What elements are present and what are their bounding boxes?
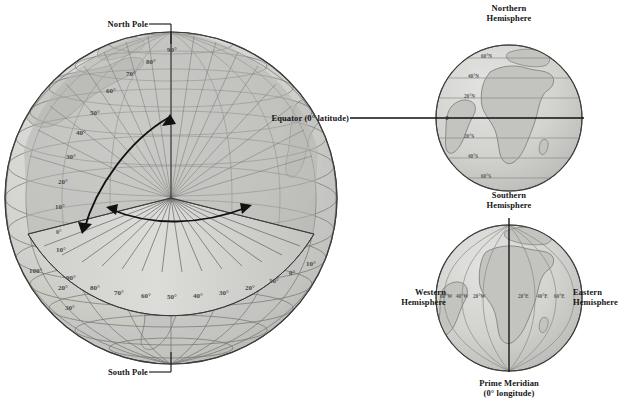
northern-hemisphere-label-line1: Northern xyxy=(459,3,559,13)
main-lat-60: 60° xyxy=(106,87,116,95)
north-pole-label: North Pole xyxy=(72,19,148,29)
main-globe-group xyxy=(5,24,337,372)
main-lat-10: 10° xyxy=(55,203,65,211)
western-hemisphere-label-line2: Hemisphere xyxy=(374,297,446,307)
eastern-hemisphere-label-line1: Eastern xyxy=(573,287,602,297)
ns-lat-60n: 60°N xyxy=(481,53,492,59)
main-lat-s20: 20° xyxy=(58,284,68,292)
we-lon-40w: 40°W xyxy=(456,293,468,299)
main-lat-s10: 10° xyxy=(56,246,66,254)
main-lon-100: 100° xyxy=(29,267,42,275)
southern-hemisphere-label-line2: Hemisphere xyxy=(459,200,559,210)
main-lat-40: 40° xyxy=(76,129,86,137)
main-lon-30: 30° xyxy=(219,289,229,297)
northern-hemisphere-label-line2: Hemisphere xyxy=(459,13,559,23)
main-lat-90: 90° xyxy=(167,46,177,54)
main-lon-0: 0° xyxy=(289,269,295,277)
ns-lat-40n: 40°N xyxy=(468,73,479,79)
ns-lat-60s: 60°S xyxy=(481,173,491,179)
we-lon-20w: 20°W xyxy=(473,293,485,299)
ns-lat-20n: 20°N xyxy=(464,93,475,99)
main-lon-50: 50° xyxy=(167,293,177,301)
main-lat-30: 30° xyxy=(66,153,76,161)
main-lat-20: 20° xyxy=(58,178,68,186)
main-lat-0: 0° xyxy=(56,229,61,236)
main-lon-10: 10° xyxy=(269,277,279,285)
ns-hemisphere-globe-group xyxy=(350,45,584,191)
we-lon-60e: 60°E xyxy=(554,293,565,299)
main-lon-60: 60° xyxy=(141,292,151,300)
we-lon-60w: 60°W xyxy=(440,293,452,299)
south-pole-label: South Pole xyxy=(72,367,148,377)
main-lat-50: 50° xyxy=(90,109,100,117)
eastern-hemisphere-label-line2: Hemisphere xyxy=(573,297,618,307)
main-lat-70: 70° xyxy=(126,70,136,78)
main-lat-80: 80° xyxy=(146,58,156,66)
main-lon-e10: 10° xyxy=(306,260,316,268)
main-lon-80: 80° xyxy=(90,284,100,292)
main-lon-90: 90° xyxy=(66,274,76,282)
prime-meridian-label-line2: (0° longitude) xyxy=(449,388,569,398)
we-lon-20e: 20°E xyxy=(518,293,529,299)
main-lon-40: 40° xyxy=(193,292,203,300)
diagram-stage: North Pole South Pole 90° 80° 70° 60° 50… xyxy=(0,0,624,402)
equator-marker-dot xyxy=(445,116,449,120)
main-lat-s30: 30° xyxy=(65,304,75,312)
main-lon-70: 70° xyxy=(114,289,124,297)
equator-label: Equator (0° latitude) xyxy=(232,113,349,123)
ns-lat-40s: 40°S xyxy=(468,153,478,159)
main-lon-20: 20° xyxy=(245,284,255,292)
southern-hemisphere-label-line1: Southern xyxy=(459,190,559,200)
ns-lat-20s: 20°S xyxy=(464,133,474,139)
we-lon-40e: 40°E xyxy=(537,293,548,299)
western-hemisphere-label-line1: Western xyxy=(384,287,446,297)
prime-meridian-label-line1: Prime Meridian xyxy=(449,378,569,388)
